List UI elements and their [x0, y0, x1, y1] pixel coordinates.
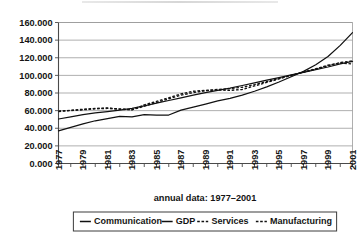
y-tick-label: 40.000 [24, 123, 52, 133]
x-tick-label: 1997 [299, 150, 309, 170]
y-tick-label: 20.000 [24, 141, 52, 151]
x-tick-label: 1983 [127, 150, 137, 170]
legend-label-manufacturing: Manufacturing [270, 216, 332, 226]
gridlines [59, 23, 353, 146]
x-tick-label: 1985 [152, 150, 162, 170]
y-tick-label: 0.000 [30, 159, 53, 169]
y-tick-label: 60.000 [24, 106, 52, 116]
x-tick-label: 1981 [103, 150, 113, 170]
x-tick-label: 1977 [54, 150, 64, 170]
x-axis-title: annual data: 1977–2001 [154, 193, 257, 203]
x-tick-label: 1993 [250, 150, 260, 170]
series-line-communication [59, 33, 353, 131]
legend-label-services: Services [211, 216, 248, 226]
x-tick-label: 1989 [201, 150, 211, 170]
legend-label-communication: Communication [94, 216, 162, 226]
x-tick-label: 1999 [323, 150, 333, 170]
x-tick-label: 1987 [176, 150, 186, 170]
chart-figure: 0.00020.00040.00060.00080.000100.000120.… [0, 0, 364, 236]
y-tick-label: 120.000 [19, 53, 52, 63]
x-tick-label: 1979 [78, 150, 88, 170]
page-edge-artifact [82, 1, 278, 3]
legend-label-gdp: GDP [176, 216, 196, 226]
x-tick-label: 1995 [274, 150, 284, 170]
data-series-group [59, 33, 353, 131]
y-tick-label: 80.000 [24, 88, 52, 98]
y-tick-label: 160.000 [19, 18, 52, 28]
y-axis-tick-labels: 0.00020.00040.00060.00080.000100.000120.… [19, 18, 52, 169]
y-tick-label: 140.000 [19, 35, 52, 45]
x-axis-tick-labels: 1977197919811983198519871989199119931995… [54, 150, 358, 170]
x-tick-label: 1991 [225, 150, 235, 170]
line-chart: 0.00020.00040.00060.00080.000100.000120.… [0, 0, 364, 236]
x-tick-label: 2001 [348, 150, 358, 170]
chart-legend: CommunicationGDPServicesManufacturing [73, 212, 336, 231]
y-tick-label: 100.000 [19, 71, 52, 81]
